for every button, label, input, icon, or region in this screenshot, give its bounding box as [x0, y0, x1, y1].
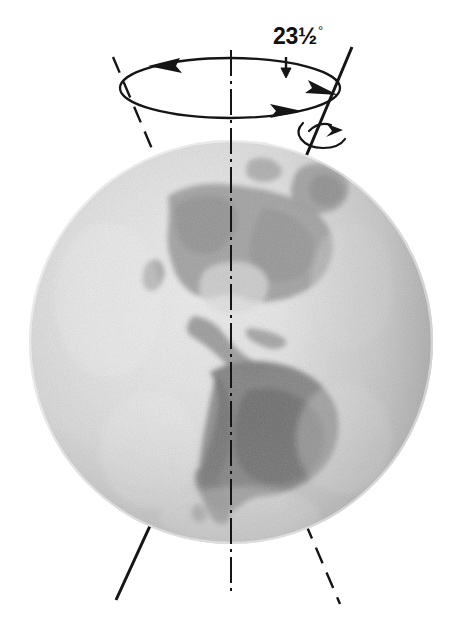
- tilt-angle-whole: 23: [273, 23, 298, 49]
- tilt-angle-pointer: [281, 57, 291, 78]
- tilt-angle-label: 23½°: [273, 24, 323, 48]
- spin-direction-arrow: [298, 123, 345, 148]
- precession-arrow-axis: [305, 80, 338, 95]
- figure-root: 23½°: [0, 0, 454, 632]
- precession-arrow-right: [270, 104, 302, 118]
- spin-arrowhead: [326, 124, 343, 137]
- precession-arrow-left: [148, 58, 182, 73]
- degree-symbol-icon: °: [318, 23, 323, 38]
- earth-tilt-diagram: [0, 0, 454, 632]
- tilt-angle-fraction: ½: [298, 23, 317, 49]
